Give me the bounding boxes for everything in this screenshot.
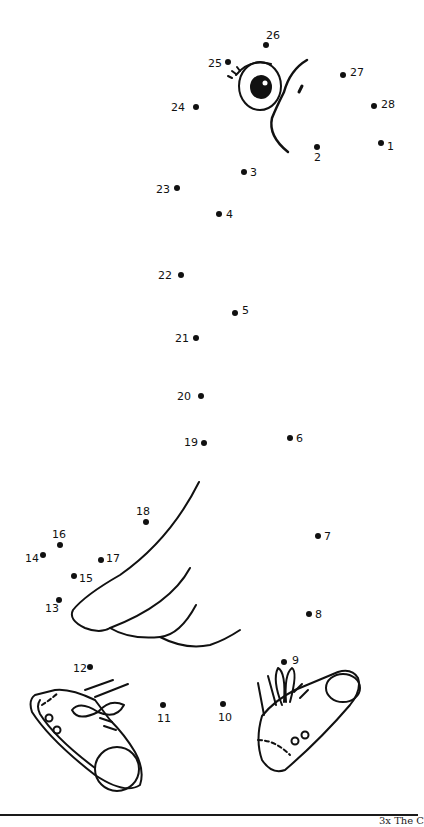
dot-label-24: 24 bbox=[171, 102, 185, 113]
dot-label-26: 26 bbox=[266, 30, 280, 41]
dot-label-14: 14 bbox=[25, 553, 39, 564]
dot-21[interactable] bbox=[193, 335, 199, 341]
dot-27[interactable] bbox=[340, 72, 346, 78]
dot-label-10: 10 bbox=[218, 712, 232, 723]
dot-label-16: 16 bbox=[52, 529, 66, 540]
dot-9[interactable] bbox=[281, 659, 287, 665]
dot-label-11: 11 bbox=[157, 713, 171, 724]
wing-drawing bbox=[72, 482, 240, 646]
dot-23[interactable] bbox=[174, 185, 180, 191]
dot-15[interactable] bbox=[71, 573, 77, 579]
footer-divider bbox=[0, 814, 418, 816]
right-shoe-drawing bbox=[258, 668, 360, 771]
dot-label-12: 12 bbox=[73, 663, 87, 674]
dot-label-9: 9 bbox=[292, 655, 299, 666]
dot-label-28: 28 bbox=[381, 99, 395, 110]
nostril-mark bbox=[299, 86, 302, 92]
dot-label-18: 18 bbox=[136, 506, 150, 517]
eye-drawing bbox=[228, 62, 281, 110]
dot-5[interactable] bbox=[232, 310, 238, 316]
dot-4[interactable] bbox=[216, 211, 222, 217]
dot-label-7: 7 bbox=[324, 531, 331, 542]
dot-label-6: 6 bbox=[296, 433, 303, 444]
dot-label-23: 23 bbox=[156, 184, 170, 195]
dot-11[interactable] bbox=[160, 702, 166, 708]
dot-20[interactable] bbox=[198, 393, 204, 399]
dot-2[interactable] bbox=[314, 144, 320, 150]
dot-label-8: 8 bbox=[315, 609, 322, 620]
dot-label-3: 3 bbox=[250, 167, 257, 178]
dot-16[interactable] bbox=[57, 542, 63, 548]
dot-26[interactable] bbox=[263, 42, 269, 48]
dot-label-25: 25 bbox=[208, 58, 222, 69]
dot-3[interactable] bbox=[241, 169, 247, 175]
footer-text: 3x The C bbox=[379, 816, 424, 826]
dot-12[interactable] bbox=[87, 664, 93, 670]
dot-label-17: 17 bbox=[106, 553, 120, 564]
dot-label-5: 5 bbox=[242, 305, 249, 316]
dot-17[interactable] bbox=[98, 557, 104, 563]
left-shoe-drawing bbox=[31, 680, 142, 791]
dot-label-2: 2 bbox=[314, 152, 321, 163]
dot-14[interactable] bbox=[40, 552, 46, 558]
dot-label-13: 13 bbox=[45, 603, 59, 614]
dot-6[interactable] bbox=[287, 435, 293, 441]
dot-24[interactable] bbox=[193, 104, 199, 110]
dot-25[interactable] bbox=[225, 59, 231, 65]
dot-18[interactable] bbox=[143, 519, 149, 525]
dot-22[interactable] bbox=[178, 272, 184, 278]
dot-label-20: 20 bbox=[177, 391, 191, 402]
dot-19[interactable] bbox=[201, 440, 207, 446]
dot-7[interactable] bbox=[315, 533, 321, 539]
dot-1[interactable] bbox=[378, 140, 384, 146]
dot-28[interactable] bbox=[371, 103, 377, 109]
dot-label-15: 15 bbox=[79, 573, 93, 584]
beak-curve bbox=[271, 60, 307, 152]
dot-label-21: 21 bbox=[175, 333, 189, 344]
dot-label-22: 22 bbox=[158, 270, 172, 281]
dot-label-19: 19 bbox=[184, 437, 198, 448]
dot-label-1: 1 bbox=[387, 141, 394, 152]
dot-8[interactable] bbox=[306, 611, 312, 617]
dot-10[interactable] bbox=[220, 701, 226, 707]
dot-label-4: 4 bbox=[226, 209, 233, 220]
dot-label-27: 27 bbox=[350, 67, 364, 78]
